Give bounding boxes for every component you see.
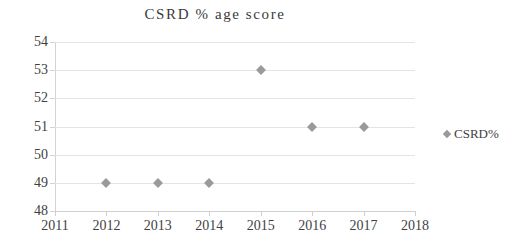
- x-axis-tick: [261, 211, 262, 216]
- x-axis-tick-label: 2018: [385, 218, 445, 235]
- y-axis-tick: [50, 183, 55, 184]
- y-axis-tick: [50, 155, 55, 156]
- data-point-marker: [204, 178, 214, 188]
- chart-container: CSRD % age score 48495051525354 20112012…: [0, 0, 530, 248]
- legend-label: CSRD%: [454, 126, 499, 142]
- gridline: [55, 98, 415, 99]
- x-axis-tick: [415, 211, 416, 216]
- gridline: [55, 155, 415, 156]
- gridline: [55, 211, 415, 212]
- y-axis-tick: [50, 70, 55, 71]
- data-point-marker: [307, 122, 317, 132]
- gridline: [55, 70, 415, 71]
- y-axis-tick: [50, 127, 55, 128]
- x-axis-tick: [106, 211, 107, 216]
- data-point-marker: [359, 122, 369, 132]
- y-axis-tick-label: 52: [4, 91, 48, 105]
- y-axis-tick-labels: 48495051525354: [0, 0, 48, 248]
- y-axis-tick-label: 49: [4, 176, 48, 190]
- plot-area: [55, 42, 415, 211]
- gridline: [55, 42, 415, 43]
- y-axis-tick-label: 50: [4, 148, 48, 162]
- x-axis-tick: [55, 211, 56, 216]
- x-axis-tick-labels: 20112012201320142015201620172018: [0, 218, 530, 240]
- y-axis-tick-label: 51: [4, 120, 48, 134]
- chart-title: CSRD % age score: [0, 6, 430, 23]
- x-axis-tick: [364, 211, 365, 216]
- y-axis-tick: [50, 98, 55, 99]
- y-axis-tick: [50, 42, 55, 43]
- x-axis-tick: [209, 211, 210, 216]
- y-axis-tick-label: 48: [4, 204, 48, 218]
- data-point-marker: [101, 178, 111, 188]
- y-axis-tick-label: 53: [4, 63, 48, 77]
- data-point-marker: [153, 178, 163, 188]
- chart-legend: CSRD%: [444, 125, 499, 143]
- legend-marker-icon: [443, 130, 451, 138]
- y-axis-tick-label: 54: [4, 35, 48, 49]
- data-point-marker: [256, 65, 266, 75]
- x-axis-tick: [158, 211, 159, 216]
- x-axis-tick: [312, 211, 313, 216]
